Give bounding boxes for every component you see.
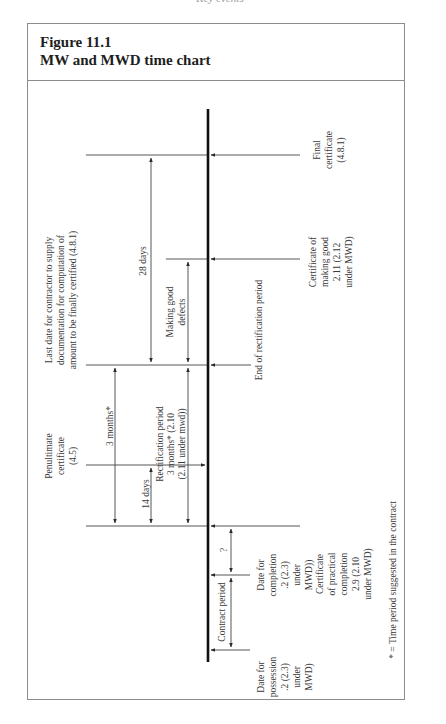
svg-text:completion: completion — [339, 552, 349, 595]
svg-text:?: ? — [219, 548, 229, 552]
svg-text:under MWD): under MWD) — [344, 236, 355, 287]
label-date-for-possession: Date for possession .2 (2.3) under MWD) — [256, 656, 315, 697]
svg-text:Final: Final — [312, 140, 322, 160]
svg-text:2.11 (2.12: 2.11 (2.12 — [332, 243, 343, 282]
label-penultimate-certificate: Penultimate certificate (4.5) — [44, 433, 79, 478]
label-3-months: 3 months* — [105, 406, 115, 446]
svg-text:3 months*: 3 months* — [105, 406, 115, 446]
svg-text:under: under — [292, 665, 302, 687]
label-rectification-period: Rectification period 3 months* (2.10 (2.… — [155, 406, 188, 482]
period-arrows — [115, 158, 231, 647]
svg-text:14 days: 14 days — [141, 479, 151, 509]
svg-text:2.9 (2.10: 2.9 (2.10 — [351, 557, 362, 591]
svg-text:28 days: 28 days — [138, 246, 148, 276]
svg-text:completion: completion — [268, 553, 278, 596]
label-28-days: 28 days — [138, 246, 148, 276]
svg-text:under MWD): under MWD) — [363, 548, 374, 599]
label-unknown-period: ? — [219, 548, 229, 552]
svg-text:defects: defects — [177, 298, 187, 325]
label-certificate-making-good: Certificate of making good 2.11 (2.12 un… — [308, 236, 355, 288]
label-end-rectification: End of rectification period — [254, 280, 264, 381]
label-14-days: 14 days — [141, 479, 151, 509]
svg-text:End of rectification period: End of rectification period — [254, 280, 264, 381]
svg-text:Date for: Date for — [256, 558, 266, 590]
label-certificate-practical-completion: Certificate of practical completion 2.9 … — [315, 548, 374, 599]
svg-text:(4.5): (4.5) — [68, 447, 79, 465]
svg-text:(2.11 under mwd)): (2.11 under mwd)) — [177, 408, 188, 479]
label-final-certificate: Final certificate (4.8.1) — [312, 131, 347, 169]
svg-text:under: under — [292, 563, 302, 585]
svg-text:of practical: of practical — [327, 552, 337, 595]
svg-text:Last date for contractor to su: Last date for contractor to supply — [44, 237, 54, 364]
svg-text:making good: making good — [320, 237, 330, 287]
svg-text:amount to be finally certified: amount to be finally certified (4.8.1) — [68, 231, 79, 370]
svg-text:Rectification period: Rectification period — [155, 406, 165, 482]
svg-text:possession: possession — [268, 656, 278, 697]
svg-text:MWD): MWD) — [304, 663, 315, 690]
svg-text:Date for: Date for — [256, 660, 266, 692]
svg-text:Contract period: Contract period — [217, 582, 227, 642]
footnote: * = Time period suggested in the contrac… — [388, 501, 398, 659]
svg-text:.2 (2.3): .2 (2.3) — [280, 663, 291, 691]
svg-text:certificate: certificate — [56, 437, 66, 475]
event-lines — [86, 155, 207, 526]
label-making-good-defects: Making good defects — [165, 286, 187, 337]
svg-text:documentation for computation: documentation for computation of — [56, 234, 66, 365]
svg-text:* = Time period suggested in t: * = Time period suggested in the contrac… — [388, 501, 398, 659]
label-last-date-contractor: Last date for contractor to supply docum… — [44, 231, 79, 370]
svg-text:Penultimate: Penultimate — [44, 433, 54, 478]
svg-text:certificate: certificate — [324, 131, 334, 169]
time-chart-diagram: Final certificate (4.8.1) Certificate of… — [0, 0, 446, 724]
svg-text:Certificate: Certificate — [315, 554, 325, 594]
label-contract-period: Contract period — [217, 582, 227, 642]
svg-text:3 months* (2.10: 3 months* (2.10 — [166, 413, 177, 475]
svg-text:(4.8.1): (4.8.1) — [336, 137, 347, 162]
svg-text:Making good: Making good — [165, 286, 175, 337]
svg-text:.2 (2.3): .2 (2.3) — [280, 561, 291, 589]
svg-text:Certificate of: Certificate of — [308, 236, 318, 287]
label-date-for-completion: Date for completion .2 (2.3) under MWD)) — [256, 553, 315, 596]
svg-text:MWD)): MWD)) — [304, 560, 315, 591]
